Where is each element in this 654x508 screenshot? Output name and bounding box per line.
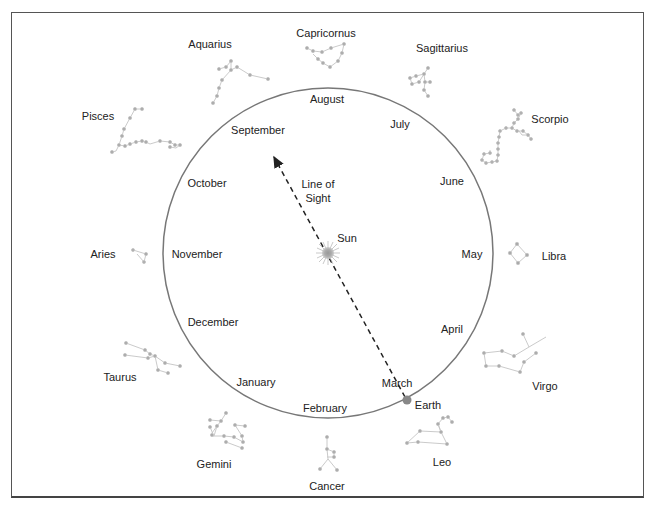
sun-label: Sun: [337, 232, 357, 245]
constellation-label-libra: Libra: [542, 250, 566, 263]
month-label-january: January: [236, 376, 275, 389]
leo-constellation-icon: [405, 415, 453, 445]
line-of-sight-label-line2: Sight: [305, 192, 330, 205]
aries-constellation-icon: [132, 249, 148, 264]
month-label-february: February: [303, 402, 347, 415]
line-of-sight-label-line1: Line of: [301, 178, 334, 191]
month-label-october: October: [187, 177, 226, 190]
capricornus-constellation-icon: [305, 42, 345, 68]
aquarius-constellation-icon: [211, 59, 269, 104]
pisces-constellation-icon: [110, 107, 181, 153]
constellation-label-capricornus: Capricornus: [296, 27, 355, 40]
earth-icon: [403, 396, 412, 405]
month-label-november: November: [172, 248, 223, 261]
month-label-july: July: [390, 118, 410, 131]
constellation-label-sagittarius: Sagittarius: [416, 42, 468, 55]
month-label-june: June: [440, 175, 464, 188]
month-label-march: March: [382, 377, 413, 390]
constellation-label-virgo: Virgo: [532, 380, 557, 393]
virgo-constellation-icon: [482, 332, 546, 373]
month-label-december: December: [188, 316, 239, 329]
month-label-may: May: [462, 248, 483, 261]
constellation-label-aquarius: Aquarius: [188, 38, 231, 51]
constellation-label-scorpio: Scorpio: [531, 113, 568, 126]
sagittarius-constellation-icon: [408, 66, 431, 97]
gemini-constellation-icon: [208, 411, 246, 449]
cancer-constellation-icon: [318, 435, 338, 471]
constellation-label-leo: Leo: [433, 456, 451, 469]
line-of-sight-arrow: [274, 157, 405, 397]
scorpio-constellation-icon: [481, 109, 533, 165]
constellation-label-aries: Aries: [90, 248, 115, 261]
libra-constellation-icon: [508, 242, 528, 264]
constellation-label-taurus: Taurus: [103, 371, 136, 384]
month-label-april: April: [441, 323, 463, 336]
month-label-september: September: [231, 124, 285, 137]
constellation-label-pisces: Pisces: [82, 110, 114, 123]
constellation-label-gemini: Gemini: [197, 458, 232, 471]
constellation-label-cancer: Cancer: [309, 480, 344, 493]
earth-label: Earth: [415, 399, 441, 412]
month-label-august: August: [310, 93, 344, 106]
sun-icon: [316, 241, 340, 265]
